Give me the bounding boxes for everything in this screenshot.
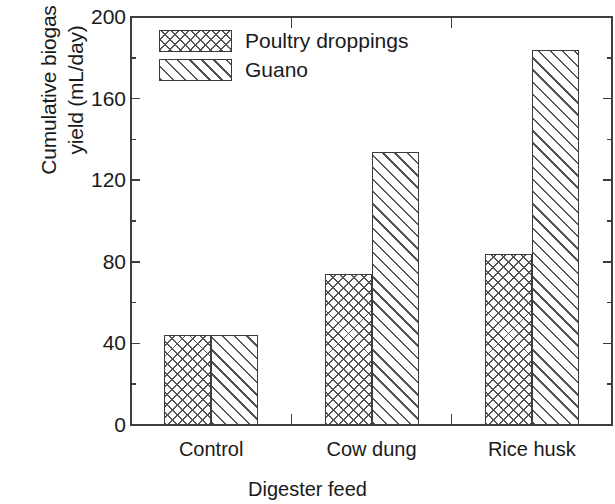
y-tick-label-40: 40 [70,332,126,353]
bar-cow-dung-poultry-droppings [325,274,372,425]
bar-rice-husk-poultry-droppings [485,254,532,425]
legend-item-guano: Guano [159,55,409,84]
y-tick-label-200: 200 [70,6,126,27]
legend-item-poultry-droppings: Poultry droppings [159,26,409,55]
bar-control-guano [211,335,258,425]
x-tick-label-cow-dung: Cow dung [292,438,452,460]
biogas-yield-bar-chart: Cumulative biogas yield (mL/day) 0408012… [0,0,615,504]
chart-legend: Poultry droppings Guano [159,26,409,84]
legend-label-guano: Guano [245,59,308,81]
legend-label-poultry-droppings: Poultry droppings [245,30,408,52]
y-axis-title-line-1: Cumulative biogas [35,5,62,174]
legend-swatch-diagonal-hatch-icon [159,59,232,81]
x-tick-label-control: Control [131,438,291,460]
bar-rice-husk-guano [532,50,579,425]
legend-swatch-crosshatch-icon [159,30,232,52]
y-tick-label-160: 160 [70,88,126,109]
y-axis-tick-labels: 04080120160200 [70,0,126,504]
bar-control-poultry-droppings [164,335,211,425]
y-tick-label-80: 80 [70,251,126,272]
y-tick-label-0: 0 [70,414,126,435]
bar-cow-dung-guano [372,152,419,425]
y-tick-label-120: 120 [70,169,126,190]
x-axis-title: Digester feed [0,478,615,500]
x-tick-label-rice-husk: Rice husk [452,438,612,460]
